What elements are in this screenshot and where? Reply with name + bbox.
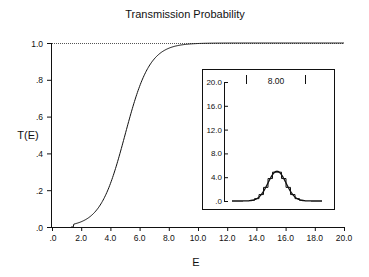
x-tick-label: 10.0 <box>190 233 207 243</box>
x-tick-label: 14.0 <box>248 233 265 243</box>
y-tick-label: .6 <box>36 112 43 122</box>
y-tick-label: .2 <box>36 186 43 196</box>
x-tick-label: 20.0 <box>336 233 353 243</box>
inset-y-tick-label: 20.0 <box>206 78 222 87</box>
x-tick-label: 6.0 <box>134 233 146 243</box>
inset-y-tick-label: 4.0 <box>211 173 223 182</box>
inset-frame <box>203 70 335 210</box>
y-tick-label: .8 <box>36 75 43 85</box>
x-tick-label: 16.0 <box>277 233 294 243</box>
x-tick-label: 18.0 <box>307 233 324 243</box>
x-tick-label: .0 <box>49 233 56 243</box>
y-tick-label: .4 <box>36 149 43 159</box>
x-tick-label: 2.0 <box>75 233 87 243</box>
x-axis-label: E <box>192 256 199 268</box>
chart: Transmission Probability .0.2.4.6.81.0 .… <box>0 0 369 277</box>
x-tick-label: 4.0 <box>104 233 116 243</box>
y-tick-label: .0 <box>36 223 43 233</box>
inset-y-tick-label: 8.0 <box>211 149 223 158</box>
x-tick-label: 8.0 <box>163 233 175 243</box>
inset-y-tick-label: 16.0 <box>206 102 222 111</box>
x-tick-label: 12.0 <box>219 233 236 243</box>
inset-y-tick-label: .0 <box>215 197 222 206</box>
inset-y-tick-label: 12.0 <box>206 126 222 135</box>
x-ticks: .02.04.06.08.010.012.014.016.018.020.0 <box>49 227 352 243</box>
y-axis-label: T(E) <box>17 129 38 141</box>
chart-title: Transmission Probability <box>125 8 245 20</box>
inset-annotation: 8.00 <box>268 76 285 86</box>
y-tick-label: 1.0 <box>31 39 43 49</box>
